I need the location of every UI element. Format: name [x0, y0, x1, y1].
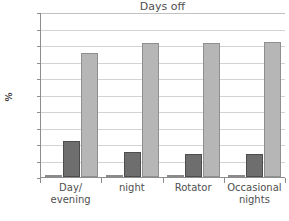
- bar: [106, 175, 123, 177]
- bar-group: [41, 13, 102, 177]
- bar-group: [102, 13, 163, 177]
- bar: [45, 175, 62, 177]
- x-axis-label: night: [101, 182, 162, 206]
- x-axis-label: Rotator: [163, 182, 224, 206]
- x-axis-label-line: Occasional: [224, 182, 285, 194]
- bar: [142, 43, 159, 177]
- plot-area: [40, 13, 285, 178]
- x-axis-label-line: night: [101, 182, 162, 194]
- x-axis-label-line: evening: [40, 194, 101, 206]
- x-axis-labels: Day/eveningnightRotatorOccasionalnights: [40, 182, 285, 206]
- bar-chart: Days off % 1009080706050403020100 Day/ev…: [0, 0, 289, 221]
- x-axis-label-line: Rotator: [163, 182, 224, 194]
- bar: [228, 175, 245, 177]
- x-axis-label-line: nights: [224, 194, 285, 206]
- bar: [167, 175, 184, 177]
- bar-group: [163, 13, 224, 177]
- bar: [203, 43, 220, 177]
- bar: [124, 152, 141, 177]
- y-axis-title: %: [4, 90, 14, 104]
- bar-groups: [41, 13, 285, 177]
- x-tick-mark: [285, 178, 286, 183]
- x-axis-label-line: Day/: [40, 182, 101, 194]
- bar: [63, 141, 80, 177]
- bar: [264, 42, 281, 177]
- chart-title: Days off: [40, 0, 285, 13]
- bar-group: [224, 13, 285, 177]
- x-axis-label: Day/evening: [40, 182, 101, 206]
- bar: [81, 53, 98, 177]
- bar: [185, 154, 202, 177]
- x-axis-label: Occasionalnights: [224, 182, 285, 206]
- bar: [246, 154, 263, 177]
